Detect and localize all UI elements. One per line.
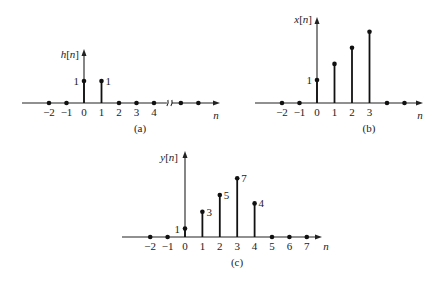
panel-c-y-of-n: y[n]n(c)−2−10113253744567 [122,151,329,269]
tick-label: 2 [349,106,355,118]
sample-dot [287,235,292,240]
sample-dot [350,46,355,51]
arrow-right-icon [315,235,322,240]
x-axis-label: n [323,240,329,252]
tick-label: 1 [99,106,105,118]
sample-dot [200,210,205,215]
tick-label: −2 [144,240,156,252]
panel-caption: (b) [363,122,376,135]
sample-dot [280,101,285,106]
tick-label: 4 [252,240,258,252]
arrow-right-icon [416,101,423,106]
tick-label: 7 [304,240,310,252]
x-axis-label: n [213,109,219,121]
tick-label: 2 [217,240,223,252]
panel-b-x-of-n: x[n]n(b)−2−101123 [255,13,423,135]
tick-label: −1 [61,106,73,118]
tick-label: −2 [276,106,288,118]
value-label: 1 [106,75,112,87]
sample-dot [402,101,407,106]
tick-label: 3 [234,240,240,252]
tick-label: 4 [151,106,157,118]
sample-dot [134,101,139,106]
sample-dot [218,193,223,198]
tick-label: −2 [43,106,55,118]
sample-dot [183,226,188,231]
sample-dot [64,101,69,106]
value-label: 7 [241,172,247,184]
tick-label: 0 [182,240,188,252]
value-label: 1 [74,75,80,87]
tick-label: 3 [134,106,140,118]
panel-caption: (a) [134,122,147,135]
value-label: 3 [206,206,212,218]
sample-dot [99,79,104,84]
sample-dot [179,101,184,106]
sample-dot [305,235,310,240]
sample-dot [270,235,275,240]
value-label: 5 [224,189,230,201]
tick-label: 0 [314,106,320,118]
x-axis-label: n [417,109,423,121]
sample-dot [252,201,257,206]
arrow-up-icon [183,151,188,158]
sample-dot [148,235,153,240]
sample-dot [332,62,337,67]
tick-label: −1 [162,240,174,252]
panel-a-h-of-n: h[n]n(a)−2−10111234 [22,48,220,135]
tick-label: −1 [294,106,306,118]
axis-break-icon [167,100,172,106]
tick-label: 2 [116,106,122,118]
y-axis-label: x[n] [293,13,312,25]
tick-label: 5 [269,240,275,252]
value-label: 4 [259,197,265,209]
arrow-up-icon [315,17,320,24]
sample-dot [367,29,372,34]
sample-dot [47,101,52,106]
sample-dot [152,101,157,106]
panel-caption: (c) [231,256,244,269]
tick-label: 3 [367,106,373,118]
tick-label: 0 [81,106,87,118]
sample-dot [82,79,87,84]
arrow-up-icon [82,49,87,56]
value-label: 1 [175,223,181,235]
sample-dot [385,101,390,106]
sample-dot [315,78,320,83]
sample-dot [117,101,122,106]
y-axis-label: h[n] [61,48,79,60]
tick-label: 1 [332,106,338,118]
sample-dot [235,176,240,181]
sample-dot [196,101,201,106]
tick-label: 1 [200,240,206,252]
sample-dot [297,101,302,106]
value-label: 1 [307,74,313,86]
sample-dot [165,235,170,240]
arrow-right-icon [213,101,220,106]
y-axis-label: y[n] [159,151,178,163]
stem-plots-figure: h[n]n(a)−2−10111234 x[n]n(b)−2−101123 y[… [0,0,443,281]
tick-label: 6 [287,240,293,252]
